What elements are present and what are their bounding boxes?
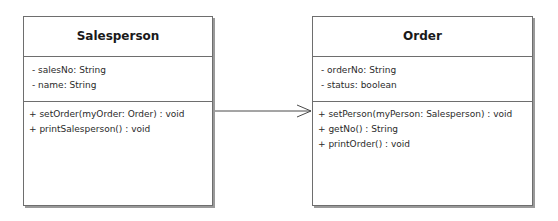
association-arrow[interactable] — [0, 0, 558, 221]
